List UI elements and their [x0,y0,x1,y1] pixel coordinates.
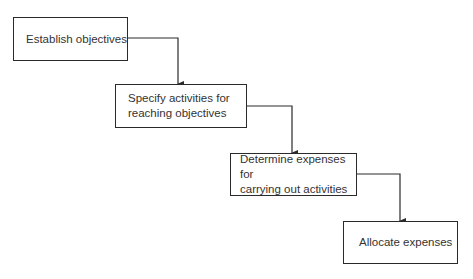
step-label-line: reaching objectives [128,106,230,121]
connector-1-2 [128,38,178,84]
step-label-line: carrying out activities [240,182,356,197]
step-label: Specify activities for reaching objectiv… [116,91,230,121]
step-label-line: Specify activities for [128,91,230,106]
connector-2-3 [247,106,292,153]
step-determine-expenses: Determine expenses for carrying out acti… [230,153,357,196]
step-label: Determine expenses for carrying out acti… [231,152,356,197]
connector-3-4 [357,174,400,221]
step-label: Allocate expenses [344,235,452,250]
step-establish-objectives: Establish objectives [13,17,128,61]
step-label: Establish objectives [14,32,127,47]
step-label-line: Determine expenses for [240,152,356,182]
step-allocate-expenses: Allocate expenses [343,221,458,264]
step-specify-activities: Specify activities for reaching objectiv… [115,84,247,128]
